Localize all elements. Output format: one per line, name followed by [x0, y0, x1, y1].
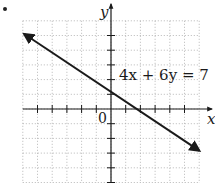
equation-label: 4x + 6y = 7	[119, 66, 209, 84]
coordinate-plane-graph: y x 0 4x + 6y = 7	[0, 0, 215, 183]
origin-label: 0	[98, 110, 107, 126]
y-axis-label: y	[99, 3, 109, 21]
x-axis-label: x	[207, 110, 215, 128]
axes	[23, 4, 212, 183]
line-4x-plus-6y-eq-7	[24, 34, 199, 151]
equation-line	[24, 34, 199, 151]
